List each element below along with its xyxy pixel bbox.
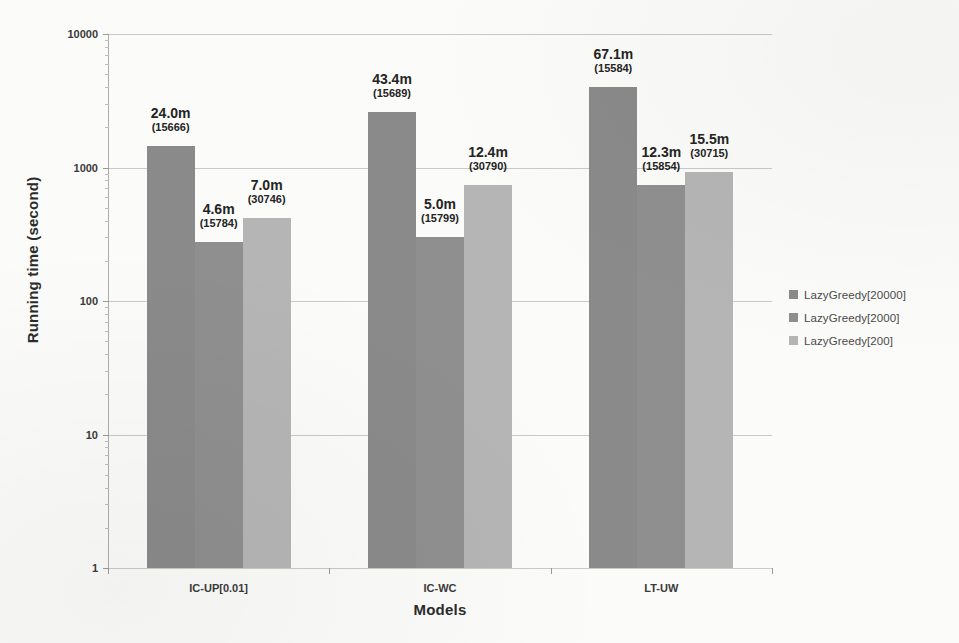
y-minor-tick [105,188,109,189]
y-minor-tick [105,197,109,198]
y-minor-tick [105,127,109,128]
y-minor-tick [105,104,109,105]
gridline [108,568,772,569]
y-tick-mark [103,168,109,169]
bar-count-text: (15784) [200,217,238,230]
bar-count-text: (30746) [248,193,286,206]
y-minor-tick [105,314,109,315]
y-minor-tick [105,47,109,48]
bar[interactable] [416,237,464,568]
legend-item[interactable]: LazyGreedy[200] [789,329,906,352]
bar-value-text: 7.0m [248,178,286,193]
y-tick-mark [103,301,109,302]
x-tick-mark [329,568,330,574]
y-minor-tick [105,341,109,342]
bar-count-text: (15799) [421,212,459,225]
legend-label: LazyGreedy[200] [804,335,893,347]
bar[interactable] [637,185,685,568]
bar-chart: 110100100010000 Running time (second) 24… [0,0,959,643]
bar-count-text: (15689) [372,87,412,100]
y-minor-tick [105,74,109,75]
bar-value-label: 15.5m(30715) [689,132,729,160]
x-tick-mark [551,568,552,574]
y-minor-tick [105,475,109,476]
y-tick-label: 1 [92,562,98,574]
x-category-label: IC-WC [424,582,457,594]
y-tick-label: 100 [80,295,98,307]
y-minor-tick [105,354,109,355]
bar[interactable] [195,242,243,568]
legend-label: LazyGreedy[20000] [804,289,906,301]
y-tick-label: 10000 [67,28,98,40]
y-tick-label: 10 [86,429,98,441]
bar-count-text: (30715) [689,147,729,160]
bar-value-text: 4.6m [200,202,238,217]
y-minor-tick [105,528,109,529]
bar-value-text: 15.5m [689,132,729,147]
bar-count-text: (15854) [641,160,681,173]
bar-value-label: 4.6m(15784) [200,202,238,230]
bar[interactable] [243,218,291,568]
bar-value-label: 67.1m(15584) [593,47,633,75]
bar-value-label: 12.4m(30790) [468,145,508,173]
y-axis-tick-labels: 110100100010000 [0,0,108,643]
x-category-label: LT-UW [644,582,678,594]
bar[interactable] [147,146,195,568]
y-minor-tick [105,64,109,65]
y-axis-title-wrapper: Running time (second) [30,180,31,181]
y-minor-tick [105,174,109,175]
y-minor-tick [105,307,109,308]
bar[interactable] [464,185,512,568]
y-minor-tick [105,447,109,448]
bar[interactable] [368,112,416,568]
y-minor-tick [105,322,109,323]
bar[interactable] [589,87,637,568]
bar-value-text: 43.4m [372,72,412,87]
bar-value-text: 12.4m [468,145,508,160]
y-tick-mark [103,34,109,35]
x-axis-title: Models [108,601,772,618]
gridline [108,34,772,35]
y-minor-tick [105,180,109,181]
x-tick-mark [108,568,109,574]
y-minor-tick [105,371,109,372]
y-minor-tick [105,394,109,395]
bar-value-label: 24.0m(15666) [151,106,191,134]
bar-value-text: 67.1m [593,47,633,62]
y-minor-tick [105,221,109,222]
bar-value-text: 24.0m [151,106,191,121]
bar[interactable] [685,172,733,568]
y-axis-title: Running time (second) [24,140,41,380]
y-minor-tick [105,87,109,88]
y-minor-tick [105,237,109,238]
bar-value-label: 5.0m(15799) [421,197,459,225]
x-category-label: IC-UP[0.01] [189,582,248,594]
bar-value-text: 12.3m [641,145,681,160]
legend-item[interactable]: LazyGreedy[20000] [789,283,906,306]
y-minor-tick [105,208,109,209]
y-minor-tick [105,261,109,262]
bar-count-text: (30790) [468,160,508,173]
y-minor-tick [105,455,109,456]
legend-item[interactable]: LazyGreedy[2000] [789,306,906,329]
bar-count-text: (15666) [151,121,191,134]
y-tick-label: 1000 [74,162,98,174]
chart-legend: LazyGreedy[20000]LazyGreedy[2000]LazyGre… [789,283,906,352]
y-minor-tick [105,488,109,489]
plot-area: 24.0m(15666)4.6m(15784)7.0m(30746)43.4m(… [108,34,772,568]
y-minor-tick [105,40,109,41]
bar-value-label: 7.0m(30746) [248,178,286,206]
legend-swatch-icon [789,313,798,322]
x-tick-mark [772,568,773,574]
y-minor-tick [105,464,109,465]
legend-swatch-icon [789,336,798,345]
bar-value-label: 12.3m(15854) [641,145,681,173]
y-minor-tick [105,55,109,56]
bar-value-text: 5.0m [421,197,459,212]
legend-label: LazyGreedy[2000] [804,312,900,324]
y-tick-mark [103,435,109,436]
y-minor-tick [105,331,109,332]
legend-swatch-icon [789,290,798,299]
bar-value-label: 43.4m(15689) [372,72,412,100]
bar-count-text: (15584) [593,62,633,75]
